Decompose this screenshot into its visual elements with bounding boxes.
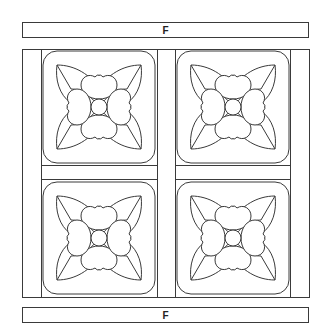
- quilt-diagram: [0, 0, 328, 333]
- bottom-border-label: F: [162, 310, 168, 321]
- quilt-outer-frame: [23, 50, 310, 298]
- bottom-border-label-bar: F: [22, 307, 309, 323]
